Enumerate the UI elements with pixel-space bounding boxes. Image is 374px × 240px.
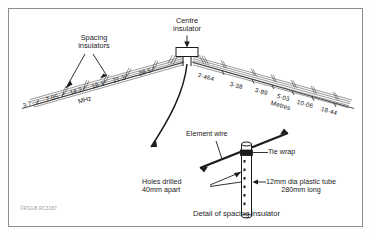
figure-root: Spacing insulators Centre insulator 3·7 …: [0, 0, 374, 240]
detail-label-tube-spec: 12mm dia plastic tube 280mm long: [266, 178, 336, 194]
credit-notice: ©RSGB RC3187: [20, 206, 57, 211]
detail-tie-wrap-band: [241, 150, 253, 156]
detail-label-element-wire: Element wire: [186, 130, 228, 138]
detail-label-holes-drilled: Holes drilled 40mm apart: [142, 178, 182, 194]
detail-element-wire-leader: [216, 141, 222, 159]
detail-holes-leader-arrow: [234, 172, 241, 178]
detail-label-tie-wrap: Tie wrap: [268, 148, 295, 156]
detail-caption: Detail of spacing insulator: [193, 210, 280, 219]
spacing-insulator-detail: [0, 0, 374, 240]
detail-tube-spec-leader: [253, 180, 267, 185]
